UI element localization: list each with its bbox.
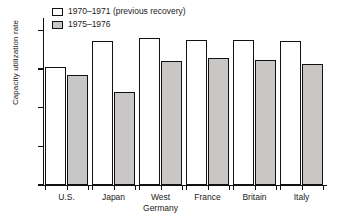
- x-tick-mark: [255, 185, 256, 190]
- x-tick-mark: [276, 185, 277, 190]
- x-tick-mark: [233, 185, 234, 190]
- x-tick-mark: [88, 185, 89, 190]
- x-tick-mark: [92, 185, 93, 190]
- capacity-utilization-bar-chart: Capacity utilization rate 1970–1971 (pre…: [0, 0, 340, 219]
- x-tick-mark: [208, 185, 209, 190]
- x-axis-label: U.S.: [43, 192, 90, 203]
- legend-swatch-1970-1971-icon: [52, 8, 63, 16]
- bar-japan-curr: [114, 92, 135, 185]
- bar-france-prev: [186, 40, 207, 185]
- bar-japan-prev: [92, 41, 113, 185]
- x-tick-mark: [323, 185, 324, 190]
- y-tick-mark: [38, 30, 43, 31]
- x-axis-line: [43, 185, 327, 186]
- bar-italy-curr: [302, 64, 323, 185]
- x-tick-mark: [135, 185, 136, 190]
- x-axis-label: Britain: [231, 192, 278, 203]
- legend-label-1970-1971: 1970–1971 (previous recovery): [68, 6, 186, 18]
- legend-item-previous-recovery: 1970–1971 (previous recovery): [52, 6, 186, 18]
- x-axis-label: Japan: [90, 192, 137, 203]
- x-tick-mark: [229, 185, 230, 190]
- y-tick-mark: [38, 146, 43, 147]
- x-tick-mark: [280, 185, 281, 190]
- bar-u.s.-prev: [45, 67, 66, 185]
- bar-britain-curr: [255, 60, 276, 185]
- bar-u.s.-curr: [67, 75, 88, 185]
- x-tick-mark: [186, 185, 187, 190]
- bar-italy-prev: [280, 41, 301, 185]
- x-axis-label: Italy: [278, 192, 325, 203]
- y-axis-title: Capacity utilization rate: [11, 3, 20, 123]
- x-tick-mark: [114, 185, 115, 190]
- x-axis-label: France: [184, 192, 231, 203]
- y-tick-mark: [38, 184, 43, 185]
- x-tick-mark: [302, 185, 303, 190]
- bar-west-germany-curr: [161, 61, 182, 185]
- x-tick-mark: [45, 185, 46, 190]
- bar-britain-prev: [233, 40, 254, 185]
- x-tick-mark: [161, 185, 162, 190]
- y-tick-mark: [38, 107, 43, 108]
- x-tick-mark: [67, 185, 68, 190]
- x-tick-mark: [139, 185, 140, 190]
- plot-area: 0255075100 U.S.JapanWest GermanyFranceBr…: [43, 18, 325, 185]
- x-tick-mark: [182, 185, 183, 190]
- y-tick-mark: [38, 68, 43, 69]
- bar-france-curr: [208, 58, 229, 185]
- x-axis-label: West Germany: [137, 192, 184, 213]
- bar-west-germany-prev: [139, 38, 160, 185]
